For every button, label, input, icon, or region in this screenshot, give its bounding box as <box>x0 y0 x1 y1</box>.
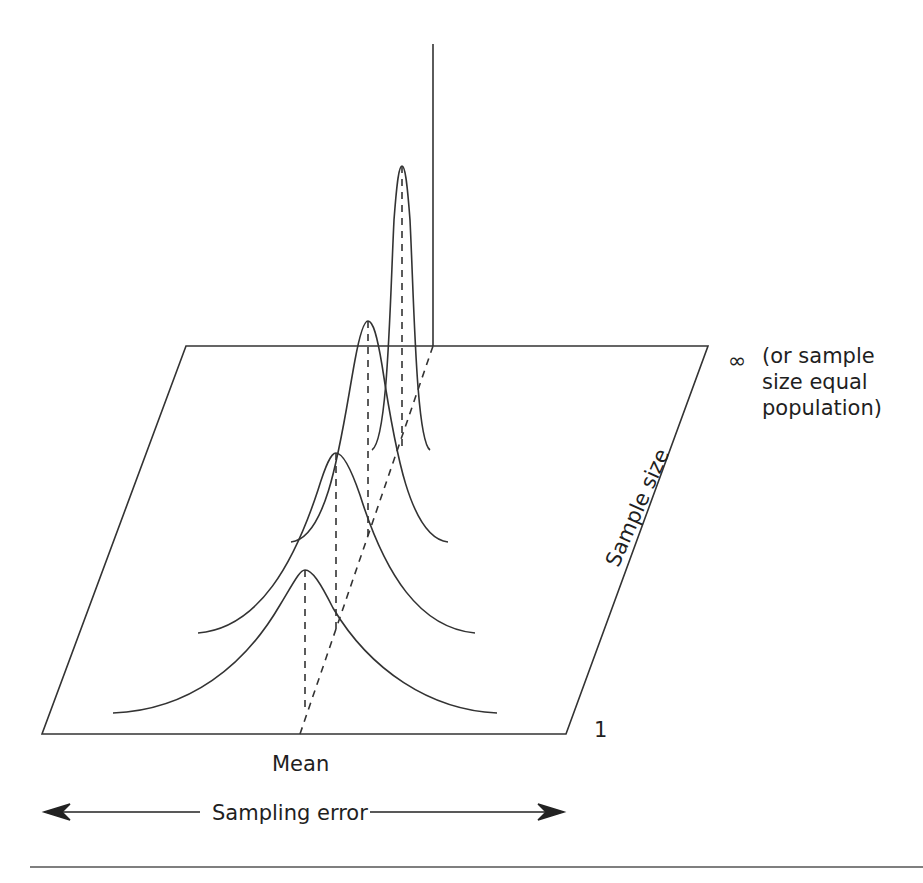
sampling-distribution-diagram <box>0 0 923 883</box>
distribution-curve-3 <box>291 321 448 542</box>
mean-label: Mean <box>272 751 329 777</box>
note-line-1: (or sample <box>762 343 882 369</box>
infinity-note: (or sample size equal population) <box>762 343 882 421</box>
note-line-2: size equal <box>762 369 882 395</box>
mean-axis-dashed <box>300 346 433 734</box>
infinity-label: ∞ <box>728 348 746 374</box>
sampling-error-label: Sampling error <box>212 800 368 826</box>
note-line-3: population) <box>762 395 882 421</box>
distribution-curve-4 <box>372 166 430 450</box>
sample-size-min-label: 1 <box>594 717 607 743</box>
